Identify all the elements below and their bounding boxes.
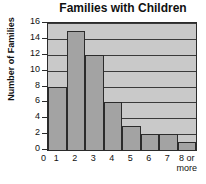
x-tick-label: 5 [121, 153, 140, 181]
bar[interactable] [48, 87, 67, 151]
x-tick-label: 6 [140, 153, 159, 181]
x-tick-label: 1 [47, 153, 66, 181]
x-tick-label: 4 [103, 153, 122, 181]
y-tick-label: 8 [26, 81, 40, 90]
bar-slot [159, 23, 178, 150]
y-tick-label: 10 [26, 65, 40, 74]
bar-slot [67, 23, 86, 150]
bar[interactable] [159, 134, 178, 150]
x-tick-label: 2 [66, 153, 85, 181]
y-tick-label: 14 [26, 33, 40, 42]
x-tick-label: 3 [84, 153, 103, 181]
bar-slot [178, 23, 197, 150]
bar-slot [122, 23, 141, 150]
bar[interactable] [67, 31, 86, 150]
bar-chart-figure: Families with Children Number of Familie… [0, 0, 206, 184]
bar-slot [48, 23, 67, 150]
plot-area [47, 22, 197, 151]
bar-slot [104, 23, 123, 150]
bar-series [48, 23, 196, 150]
bar-slot [141, 23, 160, 150]
bar-slot [85, 23, 104, 150]
bar[interactable] [178, 142, 197, 150]
x-axis-origin-label: 0 [34, 153, 46, 163]
x-axis-ticks: 12345678 ormore [47, 153, 197, 181]
y-tick-label: 12 [26, 49, 40, 58]
bar[interactable] [122, 126, 141, 150]
y-tick-label: 4 [26, 112, 40, 121]
x-tick-label: 7 [158, 153, 177, 181]
y-tick-label: 6 [26, 96, 40, 105]
x-tick-label: 8 ormore [177, 153, 198, 181]
y-tick-label: 0 [26, 144, 40, 153]
bar[interactable] [141, 134, 160, 150]
chart-title: Families with Children [40, 0, 206, 16]
bar[interactable] [85, 55, 104, 150]
y-tick-label: 16 [26, 17, 40, 26]
bar[interactable] [104, 102, 123, 150]
y-tick-label: 2 [26, 128, 40, 137]
